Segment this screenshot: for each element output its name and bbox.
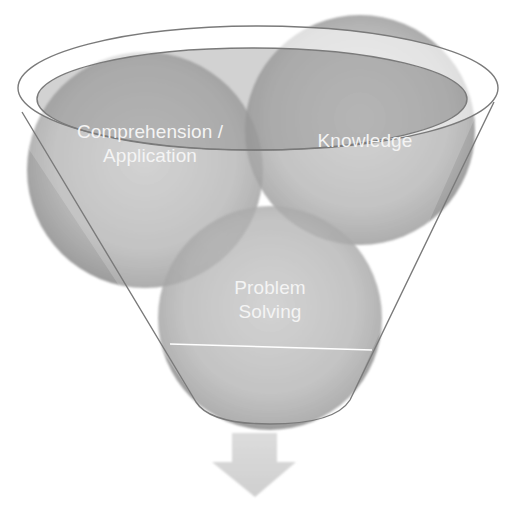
funnel-diagram: Comprehension / Application Knowledge Pr… [0,0,517,517]
label-line: Application [77,144,223,168]
label-line: Comprehension / [77,120,223,144]
label-line: Solving [234,300,305,324]
label-line: Knowledge [318,129,413,153]
funnel-graphic [0,0,517,517]
label-line: Problem [234,276,305,300]
label-comprehension-application: Comprehension / Application [77,120,223,168]
label-problem-solving: Problem Solving [234,276,305,324]
label-knowledge: Knowledge [318,129,413,153]
arrow-down-icon [212,433,296,497]
